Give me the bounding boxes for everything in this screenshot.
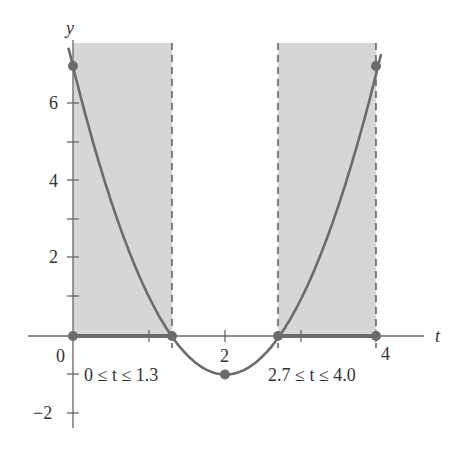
shaded-interval-1 (73, 43, 172, 336)
interval-label-1: 0 ≤ t ≤ 1.3 (84, 365, 158, 385)
y-tick-label-4: 4 (49, 171, 58, 191)
y-tick-label-2: 2 (49, 247, 58, 267)
t-axis-label: t (435, 326, 441, 346)
y-tick-label-6: 6 (49, 93, 58, 113)
y-axis-label: y (64, 18, 74, 38)
interval-label-2: 2.7 ≤ t ≤ 4.0 (268, 365, 356, 385)
x-tick-label-2: 2 (220, 346, 229, 366)
chart: y t 0 2 4 6 4 2 −2 0 ≤ t ≤ 1.3 2.7 ≤ t ≤… (0, 0, 463, 457)
shaded-interval-2 (278, 43, 376, 336)
y-tick-label-neg2: −2 (33, 403, 52, 423)
x-tick-label-4: 4 (381, 344, 390, 364)
origin-label: 0 (56, 346, 65, 366)
